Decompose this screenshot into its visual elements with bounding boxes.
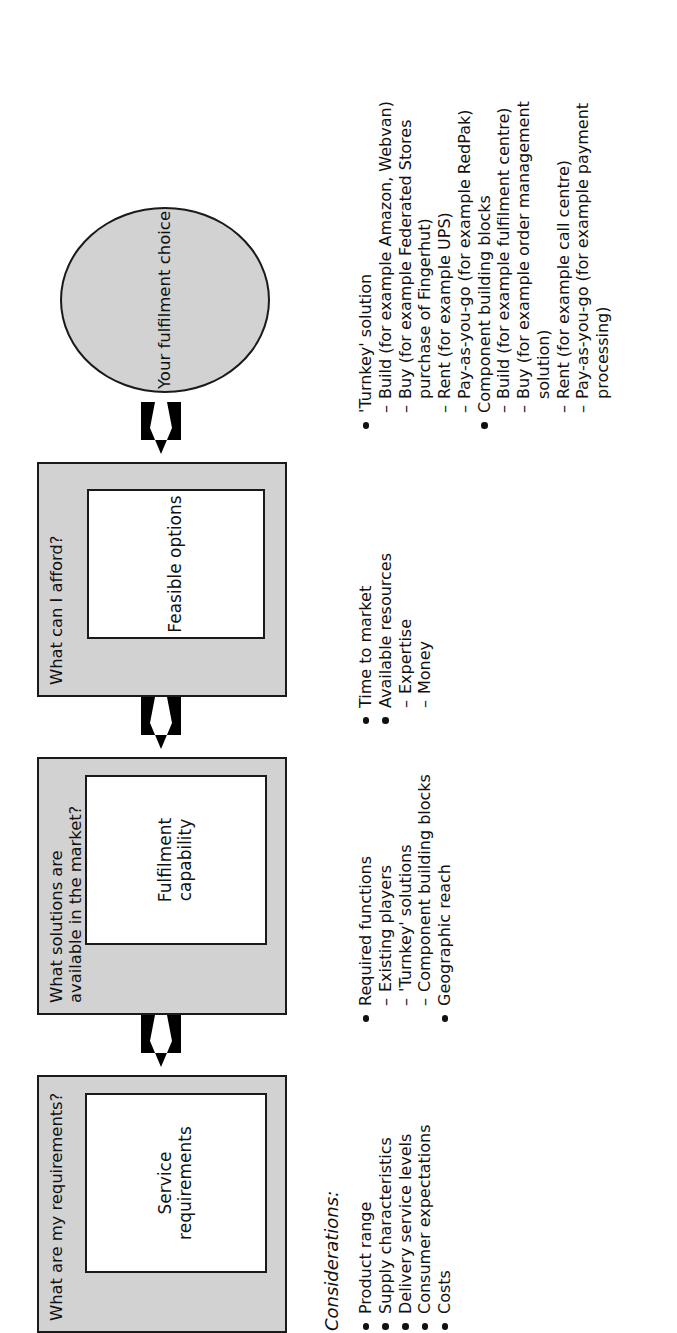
dash-icon: – [455, 405, 475, 413]
bullet-dot-icon [382, 718, 389, 725]
dash-icon: – [415, 700, 435, 708]
sub-list-item-continuation: purchase of Fingerhut) [415, 101, 435, 430]
sub-list-item: –Component building blocks [415, 774, 435, 1023]
sub-list-item: –Buy (for example Federated Stores [396, 101, 416, 430]
considerations-heading: Considerations: [321, 1191, 342, 1331]
bullet-dot-icon [382, 1324, 389, 1331]
stage-inner-requirements: Service requirements [85, 1093, 267, 1273]
dash-icon: – [415, 998, 435, 1006]
dash-icon: – [376, 998, 396, 1006]
list-item-text: 'Turnkey' solution [356, 274, 375, 413]
diagram-page: What are my requirements? Service requir… [0, 0, 677, 1333]
list-item: Geographic reach [435, 774, 455, 1023]
bullet-dot-icon [422, 1324, 429, 1331]
stage-question-capability: What solutions are available in the mark… [47, 773, 85, 1003]
considerations-group-market-solutions: Required functions –Existing players –'T… [356, 774, 455, 1023]
list-item: Costs [435, 1124, 455, 1331]
list-item-text: Costs [435, 1270, 454, 1314]
list-item-text: Available resources [376, 553, 395, 708]
stage-label-feasible-options: Feasible options [166, 491, 186, 636]
stage-question-requirements: What are my requirements? [47, 1091, 66, 1321]
bullet-dot-icon [363, 718, 370, 725]
sub-list-item-text: Build (for example Amazon, Webvan) [376, 101, 395, 399]
stage-inner-feasible-options: Feasible options [87, 489, 265, 639]
dash-icon: – [396, 700, 416, 708]
sub-list-item-text: Rent (for example call centre) [554, 160, 573, 399]
outcome-label: Your fulfilment choice [155, 211, 174, 389]
considerations-group-affordability: Time to market Available resources –Expe… [356, 553, 435, 725]
dash-icon: – [396, 998, 416, 1006]
stage-box-capability: What solutions are available in the mark… [37, 757, 287, 1015]
list-item: 'Turnkey' solution [356, 101, 376, 430]
considerations-group-fulfilment-choice: 'Turnkey' solution –Build (for example A… [356, 101, 613, 430]
bullet-dot-icon [363, 1016, 370, 1023]
stage-inner-capability: Fulfilment capability [85, 775, 267, 945]
dash-icon: – [514, 405, 534, 413]
list-item-text: Component building blocks [475, 195, 494, 413]
list-item: Supply characteristics [376, 1124, 396, 1331]
sub-list-item-text: Money [415, 641, 434, 694]
sub-list-item: –Existing players [376, 774, 396, 1023]
sub-list-item: –Expertise [396, 553, 416, 725]
sub-list-item: –'Turnkey' solutions [396, 774, 416, 1023]
list-item-text: Product range [356, 1202, 375, 1314]
list-item-text: Time to market [356, 586, 375, 708]
bullet-dot-icon [442, 1324, 449, 1331]
bullet-dot-icon [363, 423, 370, 430]
stage-question-feasible-options: What can I afford? [47, 455, 66, 685]
arrow-capability-to-options [141, 697, 181, 749]
sub-list-item-text: 'Turnkey' solutions [396, 844, 415, 992]
sub-list-item-continuation: solution) [534, 101, 554, 430]
sub-list-item-text: Expertise [396, 619, 415, 694]
arrow-options-to-choice [141, 402, 181, 454]
sub-list-item: –Rent (for example call centre) [554, 101, 574, 430]
bullet-dot-icon [402, 1324, 409, 1331]
list-item: Available resources [376, 553, 396, 725]
rotated-diagram-canvas: What are my requirements? Service requir… [0, 0, 677, 1333]
sub-list-item: –Build (for example Amazon, Webvan) [376, 101, 396, 430]
sub-list-item: –Build (for example fulfilment centre) [494, 101, 514, 430]
dash-icon: – [376, 405, 396, 413]
list-item-text: Geographic reach [435, 864, 454, 1006]
dash-icon: – [573, 405, 593, 413]
list-item: Required functions [356, 774, 376, 1023]
sub-list-item-text: Pay-as-you-go (for example payment [573, 103, 592, 399]
sub-list-item-text: Existing players [376, 865, 395, 992]
dash-icon: – [554, 405, 574, 413]
outcome-ellipse-fulfilment-choice: Your fulfilment choice [60, 207, 270, 393]
list-item-text: Consumer expectations [415, 1124, 434, 1314]
considerations-group-requirements: Product range Supply characteristics Del… [356, 1124, 455, 1331]
dash-icon: – [435, 405, 455, 413]
list-item: Component building blocks [475, 101, 495, 430]
sub-list-item: –Pay-as-you-go (for example payment [573, 101, 593, 430]
sub-list-item-text: Rent (for example UPS) [435, 212, 454, 399]
list-item: Product range [356, 1124, 376, 1331]
list-item: Delivery service levels [396, 1124, 416, 1331]
sub-list-item-text: Build (for example fulfilment centre) [494, 107, 513, 399]
sub-list-item: –Pay-as-you-go (for example RedPak) [455, 101, 475, 430]
sub-list-item-text: Component building blocks [415, 774, 434, 992]
stage-label-capability: Fulfilment capability [156, 777, 195, 943]
arrow-requirements-to-capability [141, 1015, 181, 1067]
sub-list-item-text: Buy (for example Federated Stores [396, 120, 415, 400]
list-item-text: Supply characteristics [376, 1137, 395, 1314]
stage-box-requirements: What are my requirements? Service requir… [37, 1075, 287, 1333]
bullet-dot-icon [442, 1016, 449, 1023]
sub-list-item-text: Pay-as-you-go (for example RedPak) [455, 110, 474, 399]
sub-list-item-continuation: processing) [593, 101, 613, 430]
sub-list-item-text: Buy (for example order management [514, 101, 533, 399]
list-item-text: Delivery service levels [396, 1134, 415, 1314]
dash-icon: – [396, 405, 416, 413]
bullet-dot-icon [481, 423, 488, 430]
stage-box-feasible-options: What can I afford? Feasible options [37, 462, 287, 697]
list-item-text: Required functions [356, 856, 375, 1006]
dash-icon: – [494, 405, 514, 413]
sub-list-item: –Buy (for example order management [514, 101, 534, 430]
list-item: Consumer expectations [415, 1124, 435, 1331]
bullet-dot-icon [363, 1324, 370, 1331]
stage-label-requirements: Service requirements [156, 1095, 195, 1271]
sub-list-item: –Money [415, 553, 435, 725]
sub-list-item: –Rent (for example UPS) [435, 101, 455, 430]
list-item: Time to market [356, 553, 376, 725]
